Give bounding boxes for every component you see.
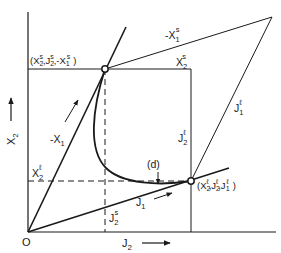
neg-x1s-edge	[105, 17, 272, 69]
neg-x1-direction-arrow	[65, 100, 78, 122]
j1-direction-arrow	[154, 193, 172, 199]
y-axis-label: X2	[5, 133, 20, 145]
j1l-label: J1ℓ	[234, 98, 243, 117]
phase-diagram: X2 J2 O (X2s,J2s,-X1s) (X2ℓ,J2ℓ,J1ℓ) -X1…	[0, 0, 281, 253]
x2l-label: X2ℓ	[32, 163, 43, 182]
l-point-label: (X2ℓ,J2ℓ,J1ℓ)	[197, 178, 236, 192]
trajectory-curve	[94, 69, 191, 183]
x-axis-label: J2	[122, 237, 133, 252]
x2s-label: X2s	[176, 52, 187, 71]
j2s-label: J2s	[109, 208, 118, 227]
origin-label: O	[22, 236, 31, 248]
j1l-edge	[191, 17, 272, 181]
j1-line	[28, 168, 229, 232]
d-label: (d)	[147, 158, 160, 170]
neg-x1-label: -X1	[50, 133, 65, 148]
s-point-label: (X2s,J2s,-X1s)	[30, 53, 76, 67]
j2l-label: J2ℓ	[178, 128, 187, 147]
svg-text:X2: X2	[5, 133, 20, 145]
l-point-marker	[188, 178, 194, 184]
neg-x1s-label: -X1s	[165, 25, 180, 44]
s-point-marker	[102, 66, 108, 72]
j1-label: J1	[136, 196, 145, 211]
